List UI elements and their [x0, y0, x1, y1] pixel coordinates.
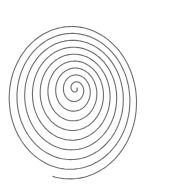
spiral-icon: [0, 0, 175, 190]
spiral-drawing: [0, 0, 175, 190]
